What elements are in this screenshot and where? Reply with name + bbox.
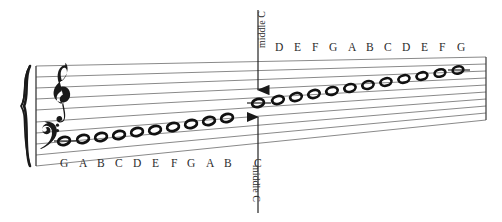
note-head <box>416 71 428 81</box>
bass-note-letter: A <box>79 158 87 170</box>
treble-note-letter: E <box>421 42 428 54</box>
treble-clef-icon <box>54 63 71 123</box>
treble-note-letter: F <box>439 42 445 54</box>
middle-c-letter-bottom: C <box>254 158 262 170</box>
treble-note-letter: D <box>402 42 410 54</box>
note-head <box>289 92 302 102</box>
note-head <box>202 116 216 127</box>
note-head <box>130 127 144 138</box>
treble-note-letter: C <box>384 42 392 54</box>
brace <box>21 66 30 166</box>
treble-note-letter: G <box>329 42 337 54</box>
treble-note-letter: B <box>366 42 374 54</box>
note-head <box>94 132 108 143</box>
bass-note-letter: C <box>115 158 123 170</box>
note-head <box>307 89 320 99</box>
bass-note-letter: D <box>133 158 141 170</box>
grand-staff-figure: middle C middle C G A B C D E F G A B C … <box>0 0 502 222</box>
treble-note-letter: G <box>457 42 465 54</box>
note-head <box>398 74 411 84</box>
bass-note-letter: G <box>187 158 195 170</box>
bass-note-letter: A <box>206 158 214 170</box>
bass-note-letter: B <box>224 158 232 170</box>
note-head <box>184 119 198 130</box>
bass-note-letter: F <box>171 158 177 170</box>
bass-note-letter: B <box>97 158 105 170</box>
note-head <box>220 113 234 124</box>
note-head <box>380 77 393 87</box>
middle-c-bottom-label: middle C <box>251 165 262 202</box>
bass-clef-icon <box>40 122 59 150</box>
note-head <box>76 134 90 145</box>
middle-c-top-label: middle C <box>256 11 267 48</box>
treble-staff-lines <box>36 57 486 110</box>
treble-note-letter: F <box>312 42 318 54</box>
note-head <box>112 130 126 141</box>
treble-note-letter: A <box>348 42 356 54</box>
treble-note-letter: E <box>294 42 301 54</box>
treble-note-letter: D <box>275 42 283 54</box>
bass-note-letter: G <box>60 158 68 170</box>
note-head <box>362 80 375 90</box>
bass-note-letter: E <box>152 158 159 170</box>
note-head <box>325 86 338 96</box>
